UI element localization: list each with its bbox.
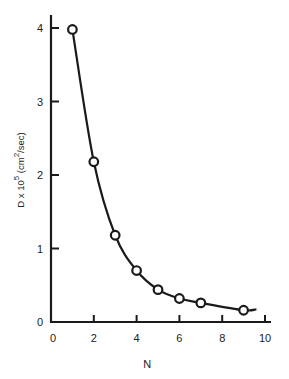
data-point-marker [239, 306, 248, 315]
diffusion-chart: 012340246810ND x 105 (cm2/sec) [0, 0, 289, 379]
y-tick-label: 4 [37, 22, 43, 34]
x-tick-label: 6 [176, 332, 182, 344]
data-point-marker [68, 25, 77, 34]
y-axis-label: D x 105 (cm2/sec) [12, 132, 26, 207]
data-point-marker [132, 266, 141, 275]
data-point-marker [175, 294, 184, 303]
y-tick-label: 0 [37, 316, 43, 328]
fit-curve-path [72, 29, 256, 310]
data-point-marker [154, 285, 163, 294]
data-point-marker [197, 299, 206, 308]
y-tick-label: 1 [37, 243, 43, 255]
axes [50, 15, 271, 323]
x-tick-label: 2 [91, 332, 97, 344]
data-point-marker [90, 157, 99, 166]
fit-curve [72, 29, 256, 310]
x-tick-label: 0 [50, 332, 56, 344]
x-tick-label: 4 [134, 332, 140, 344]
x-axis-label: N [143, 358, 151, 370]
y-tick-label: 3 [37, 96, 43, 108]
x-tick-label: 10 [259, 332, 271, 344]
x-tick-label: 8 [219, 332, 225, 344]
data-point-marker [111, 231, 120, 240]
y-tick-label: 2 [37, 169, 43, 181]
